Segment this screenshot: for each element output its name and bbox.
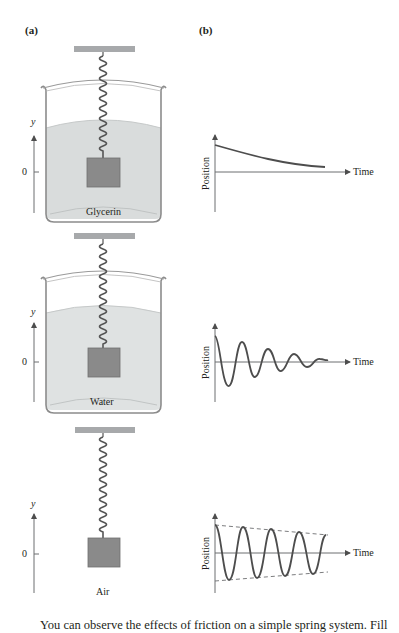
water-position-curve	[215, 336, 328, 386]
glycerin-system	[34, 46, 166, 222]
air-system	[34, 427, 135, 593]
glycerin-position-curve	[215, 145, 325, 167]
glycerin-mass	[87, 158, 120, 187]
air-medium-label: Air	[96, 586, 109, 597]
glycerin-graph-xlabel: Time	[353, 166, 374, 177]
water-zero-label: 0	[22, 356, 27, 367]
air-zero-label: 0	[22, 548, 27, 559]
air-graph-xlabel: Time	[353, 547, 374, 558]
air-y-axis-label: y	[31, 498, 35, 509]
glycerin-zero-label: 0	[22, 166, 27, 177]
water-graph-xlabel: Time	[353, 356, 374, 367]
air-ceiling	[75, 427, 135, 433]
glycerin-ceiling	[74, 46, 135, 52]
air-mass	[88, 538, 120, 567]
water-ceiling	[74, 233, 135, 239]
figure-caption-fragment: You can observe the effects of friction …	[40, 618, 387, 633]
water-system	[34, 233, 166, 413]
glycerin-medium-label: Glycerin	[86, 206, 121, 217]
glycerin-graph-ylabel: Position	[200, 155, 211, 193]
water-medium-label: Water	[90, 396, 114, 407]
water-mass	[88, 348, 120, 377]
water-graph	[215, 324, 350, 402]
water-graph-ylabel: Position	[200, 344, 211, 382]
air-spring	[100, 437, 107, 538]
glycerin-graph	[215, 135, 350, 212]
glycerin-y-axis-label: y	[31, 116, 35, 127]
air-graph-ylabel: Position	[200, 535, 211, 573]
water-y-axis-label: y	[31, 306, 35, 317]
air-graph	[215, 514, 350, 593]
